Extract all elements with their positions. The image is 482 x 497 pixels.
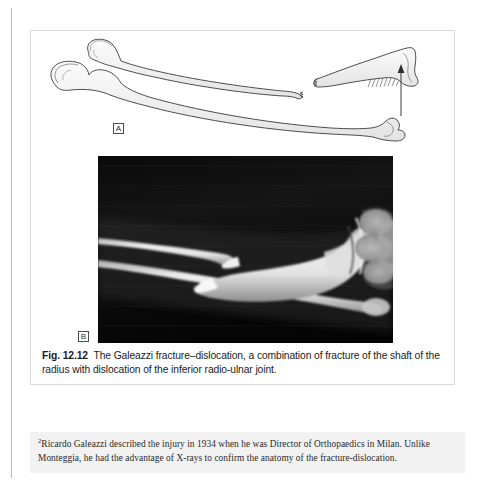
figure-caption-text: The Galeazzi fracture–dislocation, a com… xyxy=(42,350,440,375)
panel-b-radiograph xyxy=(98,156,393,343)
panel-label-b: B xyxy=(78,331,89,342)
footnote-block: 2Ricardo Galeazzi described the injury i… xyxy=(30,432,465,473)
figure-container: A xyxy=(30,30,455,385)
figure-number: Fig. 12.12 xyxy=(42,350,88,361)
forearm-line-drawing-svg xyxy=(31,31,456,153)
forearm-radiograph-svg xyxy=(98,156,393,343)
displacement-arrow-icon xyxy=(398,64,405,116)
page-gutter-rule xyxy=(11,8,12,478)
figure-caption: Fig. 12.12 The Galeazzi fracture–disloca… xyxy=(42,349,446,378)
page-sheet: A xyxy=(0,0,482,497)
radius-distal-fragment-shape xyxy=(314,48,418,87)
panel-a-line-drawing xyxy=(31,31,456,153)
panel-label-a: A xyxy=(113,123,124,134)
footnote-text: Ricardo Galeazzi described the injury in… xyxy=(38,439,430,463)
